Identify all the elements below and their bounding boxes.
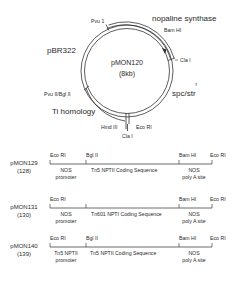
region-label-ti-homology: Ti homology <box>52 108 95 116</box>
site-label: Eco RI <box>210 236 226 241</box>
segment-coding: Tn601 NPTI Coding Sequence <box>91 212 162 217</box>
segment-promoter-2: promoter <box>46 258 86 263</box>
site-label: Eco RI <box>210 197 226 202</box>
region-label-nos: nopaline synthase <box>152 15 217 23</box>
construct-number: (139) <box>4 251 44 257</box>
plasmid-name: pMON120 <box>107 59 147 66</box>
site-label-clai-right: Cla I <box>180 58 191 63</box>
plasmid-map-graphic <box>0 0 241 283</box>
segment-polya-2: poly A site <box>176 175 212 180</box>
site-label-ecori: Eco RI <box>136 125 152 130</box>
construct-number: (130) <box>4 212 44 218</box>
site-label: Bam HI <box>179 197 196 202</box>
site-label-pvu2-bgl2: Pvu II/Bgl II <box>44 92 71 97</box>
region-label-pbr322: pBR322 <box>47 47 76 55</box>
segment-promoter-2: promoter <box>48 175 84 180</box>
site-label-hind3: Hind III <box>101 125 117 130</box>
segment-coding: Tn5 NPTII Coding Sequence <box>91 168 157 173</box>
site-label: Eco RI <box>50 236 66 241</box>
segment-promoter: Tn5 NPTII <box>46 251 86 256</box>
site-label: Bgl II <box>86 236 98 241</box>
site-label: Eco RI <box>50 153 66 158</box>
construct-name: pMON140 <box>4 243 44 249</box>
plasmid-size: (8kb) <box>107 70 147 77</box>
segment-polya-2: poly A site <box>176 219 212 224</box>
construct-name: pMON129 <box>4 160 44 166</box>
segment-promoter-2: promoter <box>48 219 84 224</box>
segment-coding: Tn5 NPTII Coding Sequence <box>90 251 156 256</box>
segment-polya: NOS <box>176 212 212 217</box>
site-label: Bam HI <box>179 236 196 241</box>
site-label: Eco RI <box>210 153 226 158</box>
segment-polya: NOS <box>176 168 212 173</box>
site-label: Eco RI <box>50 197 66 202</box>
site-label: Bgl II <box>86 153 98 158</box>
segment-polya-2: poly A site <box>176 258 212 263</box>
site-label-clai-bottom: Cla I <box>122 134 133 139</box>
site-label-pvu1: Pvu 1 <box>91 19 104 24</box>
site-label: Bam HI <box>179 153 196 158</box>
segment-promoter: NOS <box>48 212 84 217</box>
construct-name: pMON131 <box>4 204 44 210</box>
region-label-spc-str: spc/strr <box>172 88 197 98</box>
segment-promoter: NOS <box>48 168 84 173</box>
construct-number: (128) <box>4 168 44 174</box>
site-label-bamhi: Bam HI <box>164 28 181 33</box>
segment-polya: NOS <box>176 251 212 256</box>
